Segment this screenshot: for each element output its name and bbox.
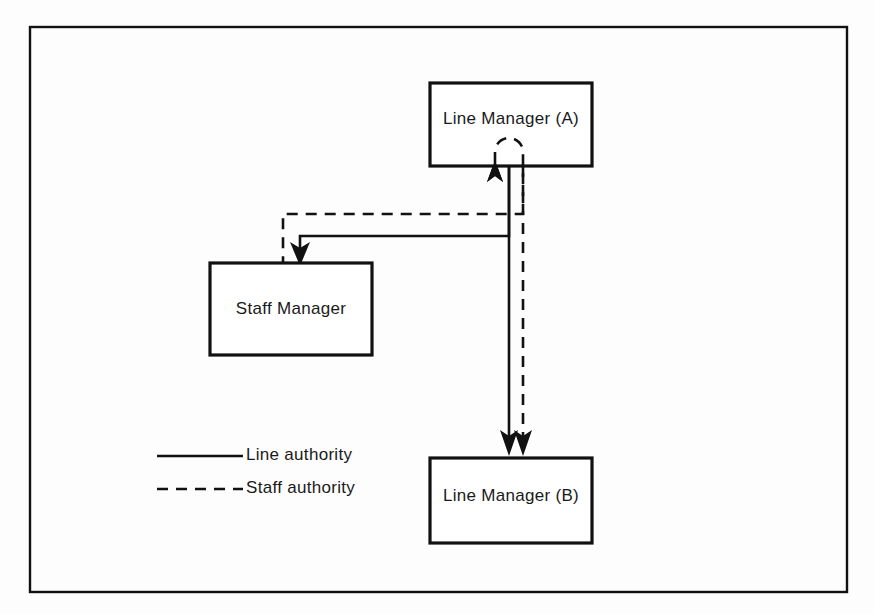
legend-line-authority-label: Line authority [246, 445, 352, 464]
org-authority-diagram: Line Manager (A) Staff Manager Line Mana… [0, 0, 874, 614]
legend-staff-authority-label: Staff authority [246, 478, 355, 497]
legend-item-line-authority: Line authority [157, 445, 352, 464]
diagram-canvas: Line Manager (A) Staff Manager Line Mana… [0, 0, 874, 614]
node-line-manager-a-label: Line Manager (A) [443, 109, 579, 128]
node-line-manager-b-label: Line Manager (B) [443, 486, 579, 505]
legend-item-staff-authority: Staff authority [157, 478, 355, 497]
connector-a-to-staff-line [300, 166, 509, 266]
node-line-manager-b[interactable]: Line Manager (B) [430, 458, 592, 543]
node-staff-manager[interactable]: Staff Manager [210, 263, 372, 355]
node-staff-manager-label: Staff Manager [236, 299, 346, 318]
legend: Line authority Staff authority [157, 445, 355, 497]
node-line-manager-a[interactable]: Line Manager (A) [430, 83, 592, 166]
